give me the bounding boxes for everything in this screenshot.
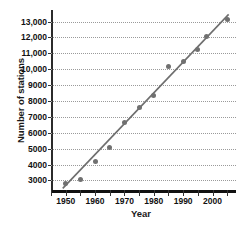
- scatter-plot-figure: Number of stations 300040005000600070008…: [0, 0, 238, 225]
- y-tick-label: 13,000: [21, 17, 47, 27]
- x-tick-mark: [80, 190, 81, 196]
- data-point: [93, 159, 98, 164]
- data-point: [107, 145, 112, 150]
- y-tick-label: 6000: [28, 128, 47, 138]
- x-tick-label: 1990: [174, 196, 193, 206]
- y-tick-label: 4000: [28, 160, 47, 170]
- x-tick-label: 2000: [203, 196, 222, 206]
- y-tick-label: 3000: [28, 175, 47, 185]
- y-tick-label: 12,000: [21, 32, 47, 42]
- data-point: [78, 177, 83, 182]
- data-point: [225, 17, 230, 22]
- x-tick-mark: [198, 190, 199, 196]
- x-tick-mark: [51, 190, 52, 196]
- y-tick-label: 7000: [28, 112, 47, 122]
- y-tick-label: 11,000: [21, 48, 47, 58]
- x-tick-mark: [168, 190, 169, 196]
- x-axis-title: Year: [51, 208, 231, 219]
- x-tick-mark: [110, 190, 111, 196]
- plot-area: 300040005000600070008000900010,00011,000…: [51, 12, 236, 190]
- data-point: [181, 59, 186, 64]
- x-tick-mark: [139, 190, 140, 196]
- x-axis-line: [51, 190, 236, 193]
- y-tick-label: 9000: [28, 80, 47, 90]
- y-tick-label: 5000: [28, 144, 47, 154]
- y-tick-label: 8000: [28, 96, 47, 106]
- x-tick-label: 1980: [144, 196, 163, 206]
- trend-line: [51, 12, 236, 190]
- x-tick-label: 1970: [115, 196, 134, 206]
- data-point: [122, 120, 127, 125]
- data-point: [137, 105, 142, 110]
- x-tick-label: 1960: [86, 196, 105, 206]
- y-tick-label: 10,000: [21, 64, 47, 74]
- x-tick-label: 1950: [56, 196, 75, 206]
- x-tick-mark: [227, 190, 228, 196]
